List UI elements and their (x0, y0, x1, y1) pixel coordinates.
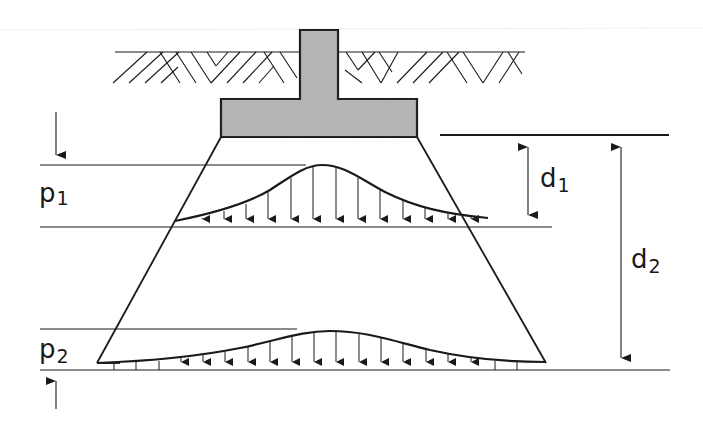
reference-lines (40, 135, 670, 370)
p1-arrows (202, 166, 471, 219)
label-d2: d2 (631, 244, 661, 277)
pressure-distribution-p2 (97, 331, 546, 370)
footing (221, 30, 417, 137)
pressure-distribution-p1 (175, 165, 488, 221)
scan-edge (0, 28, 703, 30)
label-p2: p2 (39, 334, 69, 367)
footing-stress-diagram: p1 p2 d1 d2 (0, 0, 703, 428)
p2-arrows (114, 331, 517, 370)
label-p1: p1 (39, 178, 69, 209)
label-d1: d1 (540, 163, 570, 196)
